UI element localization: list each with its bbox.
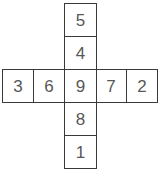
grid-cell-top-2[interactable]: 4 xyxy=(64,36,97,70)
grid-cell-left-2[interactable]: 6 xyxy=(33,69,65,103)
grid-cell-center[interactable]: 9 xyxy=(64,69,97,103)
grid-cell-right-2[interactable]: 2 xyxy=(126,69,158,103)
grid-cell-top-1[interactable]: 5 xyxy=(64,3,97,37)
grid-cell-right-1[interactable]: 7 xyxy=(95,69,127,103)
grid-cell-bottom-1[interactable]: 8 xyxy=(64,102,97,136)
cross-number-grid: 5 4 3 6 9 7 2 8 1 xyxy=(0,0,163,174)
grid-cell-left-1[interactable]: 3 xyxy=(2,69,34,103)
grid-cell-bottom-2[interactable]: 1 xyxy=(64,135,97,169)
